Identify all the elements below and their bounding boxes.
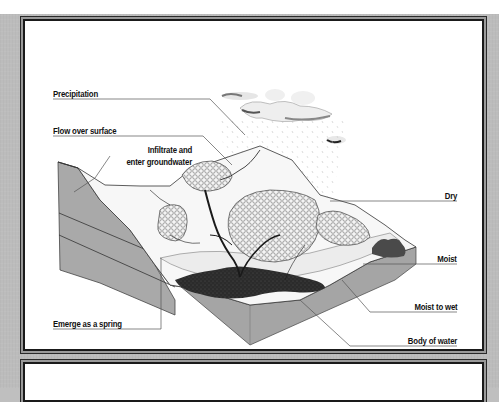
label-infiltrate-line2: enter groundwater [126, 156, 192, 167]
label-emerge-as-spring: Emerge as a spring [53, 318, 122, 329]
label-moist: Moist [437, 253, 457, 264]
label-flow-over-surface: Flow over surface [53, 125, 116, 136]
label-moist-to-wet: Moist to wet [414, 301, 457, 312]
label-dry: Dry [444, 190, 457, 201]
vegetation-patch [228, 190, 320, 262]
label-precipitation: Precipitation [53, 88, 98, 99]
vegetation-patch [158, 205, 187, 241]
label-infiltrate-line1: Infiltrate and [148, 144, 192, 155]
label-body-of-water: Body of water [408, 335, 457, 346]
